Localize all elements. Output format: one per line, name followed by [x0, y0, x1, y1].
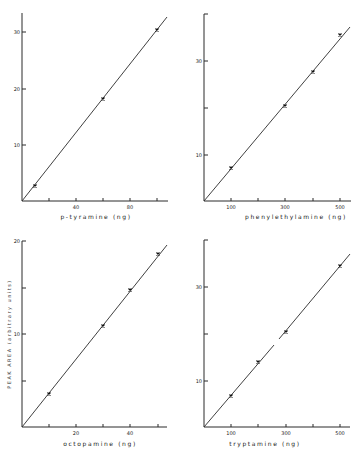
data-point [156, 29, 159, 32]
x-tick-label: 300 [281, 430, 291, 436]
fit-line [204, 345, 274, 427]
fit-line [204, 27, 350, 201]
x-tick-label: 80 [127, 204, 133, 210]
x-axis-label: tryptamine (ng) [229, 440, 300, 448]
x-tick-label: 500 [335, 430, 345, 436]
y-tick-label: 30 [196, 284, 202, 290]
y-tick-label: 30 [196, 58, 202, 64]
chart-tryptamine: 10 30 100 300 500 tryptamine (ng) [196, 240, 350, 448]
fit-line [22, 17, 167, 201]
y-axis-label: PEAK AREA (arbitrary units) [6, 279, 13, 389]
x-tick-label: 100 [226, 204, 236, 210]
data-point [157, 253, 160, 256]
x-axis-label: p-tyramine (ng) [60, 213, 131, 221]
fit-line [22, 245, 167, 427]
y-tick-label: 20 [14, 86, 20, 92]
data-point [339, 34, 342, 37]
y-tick-label: 30 [14, 29, 20, 35]
y-tick-label: 10 [196, 152, 202, 158]
x-tick-label: 40 [73, 204, 79, 210]
chart-p-tyramine: 10 20 30 40 80 p-tyramine (ng) [14, 13, 168, 221]
y-tick-label: 10 [196, 378, 202, 384]
x-axis-label: octopamine (ng) [63, 440, 137, 448]
x-tick-label: 500 [335, 204, 345, 210]
x-tick-label: 20 [73, 430, 79, 436]
y-tick-label: 10 [14, 331, 20, 337]
x-tick-label: 300 [280, 204, 290, 210]
x-tick-label: 40 [127, 430, 133, 436]
y-tick-label: 10 [14, 142, 20, 148]
x-axis-label: phenylethylamine (ng) [245, 213, 347, 221]
chart-octopamine: 10 20 20 40 octopamine (ng) PEAK AREA (a… [6, 238, 167, 448]
figure-canvas: 10 20 30 40 80 p-tyramine (ng) 10 30 100 [0, 0, 358, 454]
x-tick-label: 100 [226, 430, 236, 436]
y-tick-label: 20 [14, 238, 20, 244]
chart-phenylethylamine: 10 30 100 300 500 phenylethylamine (ng) [196, 14, 351, 221]
data-point [339, 265, 342, 268]
